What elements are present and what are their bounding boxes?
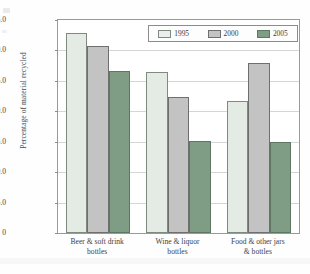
y-axis-tick-mark: [55, 172, 58, 173]
x-axis-label-line: bottles: [57, 247, 137, 257]
y-axis-tick-label: 0: [0, 228, 6, 237]
bar-2005-0: [109, 71, 131, 233]
x-axis-label-line: Wine & liquor: [137, 237, 217, 247]
y-axis-tick-label: 25.0: [0, 75, 6, 84]
y-axis-tick-mark: [55, 50, 58, 51]
y-axis-tick-label: 10.0: [0, 167, 6, 176]
legend-label: 1995: [174, 29, 189, 38]
x-axis-category-label: Wine & liquorbottles: [137, 237, 217, 256]
legend-label: 2000: [224, 29, 239, 38]
chart-legend: 1995 2000 2005: [148, 25, 298, 42]
y-axis-tick-mark: [55, 20, 58, 21]
y-axis-tick-label: 20.0: [0, 106, 6, 115]
legend-item-1995[interactable]: 1995: [158, 29, 189, 38]
bar-1995-0: [66, 33, 88, 233]
legend-label: 2005: [273, 29, 288, 38]
bar-2000-1: [168, 97, 190, 233]
bar-1995-1: [146, 72, 168, 233]
y-axis-tick-mark: [55, 81, 58, 82]
legend-item-2005[interactable]: 2005: [257, 29, 288, 38]
x-axis-label-line: & bottles: [218, 247, 298, 257]
y-axis-tick-label: 15.0: [0, 136, 6, 145]
x-axis-label-line: Food & other jars: [218, 237, 298, 247]
y-axis-tick-mark: [55, 203, 58, 204]
x-axis-label-line: bottles: [137, 247, 217, 257]
y-axis-tick-mark: [55, 111, 58, 112]
bar-2005-1: [189, 141, 211, 234]
bar-2005-2: [270, 142, 292, 233]
legend-item-2000[interactable]: 2000: [208, 29, 239, 38]
y-axis-tick-label: 35.0: [0, 15, 6, 24]
y-axis-tick-mark: [55, 233, 58, 234]
scan-artifact: [2, 30, 7, 33]
y-axis-tick-mark: [55, 142, 58, 143]
y-axis-title: Percentage of material recycled: [19, 16, 28, 186]
legend-swatch-icon: [158, 30, 171, 38]
bar-2000-0: [87, 46, 109, 233]
chart-figure: Percentage of material recycled 05.010.0…: [0, 0, 310, 274]
y-axis-tick-label: 5.0: [0, 197, 6, 206]
bar-1995-2: [227, 101, 249, 233]
legend-swatch-icon: [208, 30, 221, 38]
scan-artifact: [0, 258, 310, 264]
plot-area: [57, 19, 300, 234]
bar-2000-2: [248, 63, 270, 233]
legend-swatch-icon: [257, 30, 270, 38]
scan-artifact: [3, 8, 10, 13]
x-axis-label-line: Beer & soft drink: [57, 237, 137, 247]
x-axis-category-label: Beer & soft drinkbottles: [57, 237, 137, 256]
y-axis-tick-label: 30.0: [0, 45, 6, 54]
x-axis-category-label: Food & other jars& bottles: [218, 237, 298, 256]
